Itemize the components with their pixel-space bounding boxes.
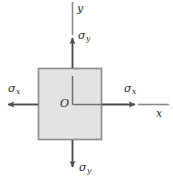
origin-label: O (60, 98, 69, 109)
figure-canvas (0, 0, 173, 183)
sigma-x-left-label: σx (8, 83, 20, 95)
axis-label-y: y (77, 3, 83, 14)
sigma-symbol: σ (124, 82, 132, 95)
sigma-y-top-label: σy (78, 30, 90, 42)
sigma-x-right-label: σx (124, 83, 136, 95)
sigma-symbol: σ (78, 29, 86, 42)
axis-label-x: x (156, 108, 162, 119)
sigma-subscript: y (87, 166, 92, 175)
sigma-symbol: σ (79, 161, 87, 174)
sigma-symbol: σ (8, 82, 16, 95)
stress-element-figure: y x O σy σy σx σx (0, 0, 173, 183)
sigma-subscript: y (86, 34, 91, 43)
sigma-y-bottom-label: σy (79, 162, 91, 174)
sigma-subscript: x (132, 87, 137, 96)
sigma-subscript: x (16, 87, 21, 96)
